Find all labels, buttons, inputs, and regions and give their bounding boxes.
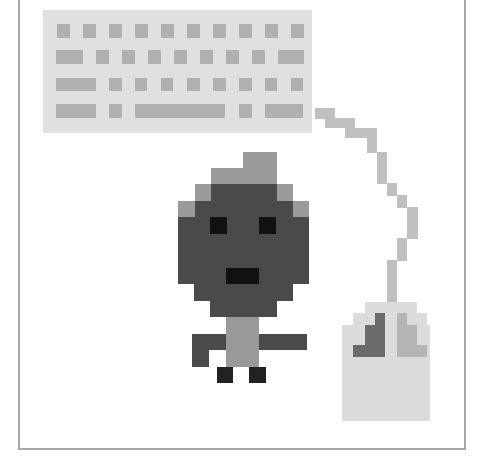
head — [195, 201, 293, 218]
head — [211, 184, 277, 201]
arm — [192, 349, 209, 367]
head — [210, 300, 277, 317]
hair — [211, 168, 277, 185]
mouth — [226, 268, 259, 284]
hair — [178, 201, 195, 218]
hair — [195, 184, 211, 201]
foot — [217, 367, 233, 383]
person-character — [0, 0, 477, 456]
head — [194, 283, 293, 301]
foot — [249, 367, 266, 383]
eye — [259, 217, 276, 234]
hair — [277, 184, 293, 201]
arm — [259, 334, 307, 350]
hair — [243, 152, 277, 169]
hair — [293, 201, 309, 218]
arm — [192, 334, 226, 350]
eye — [210, 217, 227, 234]
torso — [226, 317, 259, 367]
